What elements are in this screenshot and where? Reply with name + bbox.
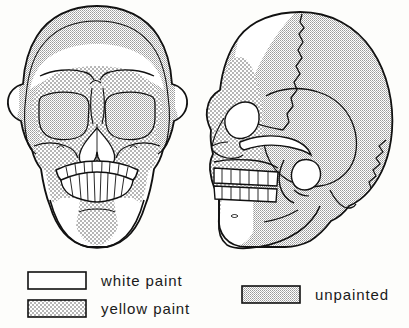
legend: white paint yellow paint unpainted [28, 272, 389, 317]
legend-item-yellow[interactable]: yellow paint [28, 300, 190, 317]
skull-paint-figure: white paint yellow paint unpainted [0, 0, 409, 328]
white-swatch [28, 272, 86, 289]
legend-label-yellow: yellow paint [101, 300, 190, 317]
lateral-chin-white-patch [219, 196, 253, 246]
dotted-swatch [28, 300, 86, 317]
frontal-orbit-right [105, 92, 155, 140]
lateral-mandibular-condyle [291, 159, 320, 190]
lateral-skull-view [195, 0, 409, 260]
legend-item-unpainted[interactable]: unpainted [242, 286, 389, 303]
legend-label-unpainted: unpainted [315, 286, 389, 303]
legend-item-white[interactable]: white paint [28, 272, 183, 289]
stippled-swatch [242, 286, 300, 303]
legend-label-white: white paint [100, 272, 183, 289]
frontal-orbit-left [39, 92, 89, 140]
frontal-skull-view [0, 0, 200, 260]
